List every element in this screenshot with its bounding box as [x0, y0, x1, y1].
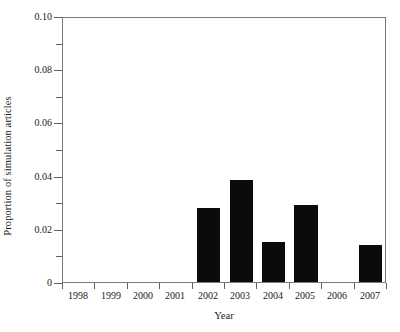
- x-tick: [354, 283, 355, 289]
- y-tick-major: [54, 70, 62, 71]
- bar-2005: [294, 205, 317, 282]
- y-tick-major: [54, 283, 62, 284]
- x-tick: [192, 283, 193, 289]
- x-tick: [386, 283, 387, 289]
- y-tick-major: [54, 177, 62, 178]
- y-tick-label: 0: [12, 278, 52, 288]
- x-tick: [127, 283, 128, 289]
- y-tick-label: 0.02: [12, 225, 52, 235]
- y-tick-minor: [56, 150, 62, 151]
- y-tick-minor: [56, 203, 62, 204]
- y-tick-minor: [56, 97, 62, 98]
- x-tick: [224, 283, 225, 289]
- y-tick-label: 0.06: [12, 118, 52, 128]
- y-tick-major: [54, 230, 62, 231]
- bar-2003: [230, 180, 253, 282]
- x-tick: [159, 283, 160, 289]
- x-tick: [256, 283, 257, 289]
- y-tick-minor: [56, 44, 62, 45]
- bar-2002: [197, 208, 220, 282]
- bar-2007: [359, 245, 382, 282]
- y-tick-label: 0.10: [12, 12, 52, 22]
- y-tick-label: 0.08: [12, 65, 52, 75]
- y-tick-minor: [56, 256, 62, 257]
- x-tick: [289, 283, 290, 289]
- x-axis-title: Year: [62, 310, 386, 321]
- x-tick: [94, 283, 95, 289]
- y-tick-major: [54, 17, 62, 18]
- plot-frame: [62, 17, 386, 283]
- x-tick: [321, 283, 322, 289]
- y-tick-major: [54, 123, 62, 124]
- x-tick-label: 2007: [350, 290, 390, 302]
- bar-2004: [262, 242, 285, 282]
- bar-chart-figure: Proportion of simulation articles 00.020…: [0, 0, 400, 332]
- y-tick-label: 0.04: [12, 172, 52, 182]
- plot-area: [63, 18, 385, 282]
- x-tick: [62, 283, 63, 289]
